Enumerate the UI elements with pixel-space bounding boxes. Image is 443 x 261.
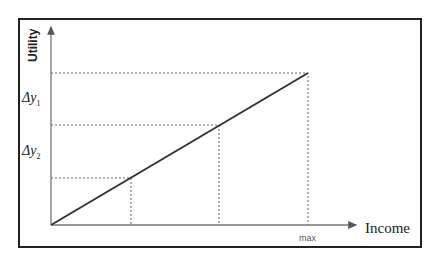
- delta-y1-label: Δy1: [22, 90, 40, 108]
- x-axis-label: Income: [365, 220, 410, 237]
- y-axis-label: Utility: [26, 22, 40, 62]
- utility-line: [51, 73, 308, 225]
- delta-y2-label: Δy2: [22, 143, 40, 161]
- x-tick-max: max: [299, 233, 316, 243]
